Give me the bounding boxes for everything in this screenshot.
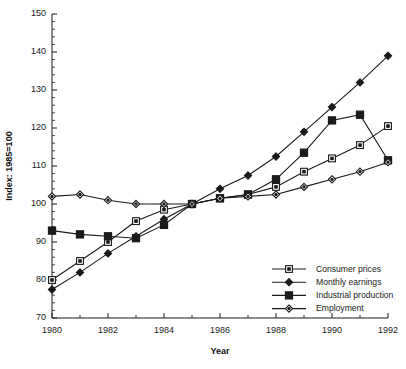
marker-filled-square: [272, 176, 279, 183]
marker-filled-square: [76, 231, 83, 238]
x-tick-label: 1986: [210, 325, 230, 335]
y-tick-label: 80: [36, 274, 46, 284]
y-tick-label: 70: [36, 312, 46, 322]
marker-open-diamond-core: [219, 197, 221, 199]
marker-open-square-core: [359, 144, 361, 146]
y-tick-label: 140: [31, 46, 46, 56]
series-employment: [48, 159, 391, 208]
marker-filled-square: [48, 227, 55, 234]
marker-filled-square: [132, 235, 139, 242]
marker-open-diamond-core: [331, 178, 333, 180]
marker-open-diamond-core: [107, 199, 109, 201]
marker-filled-diamond: [104, 250, 111, 257]
y-axis-title: Index: 1985=100: [4, 131, 14, 200]
marker-open-diamond-core: [303, 186, 305, 188]
legend-item-consumer-prices[interactable]: Consumer prices: [272, 264, 381, 274]
marker-open-diamond-core: [247, 195, 249, 197]
marker-open-diamond-core: [163, 203, 165, 205]
marker-open-square-core: [51, 279, 53, 281]
x-tick-label: 1992: [378, 325, 398, 335]
series-line: [52, 115, 388, 239]
y-tick-label: 90: [36, 236, 46, 246]
marker-filled-diamond: [48, 286, 55, 293]
marker-filled-square: [104, 233, 111, 240]
legend-item-employment[interactable]: Employment: [272, 303, 364, 313]
legend: Consumer pricesMonthly earningsIndustria…: [272, 264, 394, 314]
y-tick-label: 110: [32, 160, 46, 170]
legend-item-monthly-earnings[interactable]: Monthly earnings: [272, 277, 381, 287]
marker-filled-diamond: [244, 172, 251, 179]
legend-label: Consumer prices: [316, 264, 381, 274]
marker-filled-square: [356, 111, 363, 118]
marker-open-diamond-core: [275, 193, 277, 195]
x-tick-label: 1988: [266, 325, 286, 335]
marker-filled-diamond: [216, 185, 223, 192]
series-monthly-earnings: [48, 52, 391, 293]
marker-open-square-core: [303, 171, 305, 173]
chart-container: 7080901001101201301401501980198219841986…: [0, 0, 406, 369]
legend-label: Industrial production: [316, 290, 394, 300]
marker-open-diamond-core: [135, 203, 137, 205]
marker-open-diamond-core: [288, 308, 290, 310]
marker-filled-square: [160, 221, 167, 228]
marker-open-diamond-core: [359, 171, 361, 173]
series-line: [52, 56, 388, 290]
marker-open-square-core: [107, 241, 109, 243]
marker-filled-diamond: [76, 269, 83, 276]
marker-open-square-core: [79, 260, 81, 262]
marker-open-square-core: [135, 220, 137, 222]
y-tick-label: 100: [31, 198, 46, 208]
y-tick-label: 150: [31, 8, 46, 18]
marker-open-diamond-core: [387, 161, 389, 163]
x-tick-label: 1982: [98, 325, 118, 335]
x-tick-label: 1990: [322, 325, 342, 335]
legend-label: Monthly earnings: [316, 277, 381, 287]
legend-label: Employment: [316, 303, 364, 313]
marker-open-square-core: [387, 125, 389, 127]
y-tick-label: 120: [31, 122, 46, 132]
marker-filled-diamond: [285, 279, 292, 286]
legend-item-industrial-production[interactable]: Industrial production: [272, 290, 394, 300]
line-chart: 7080901001101201301401501980198219841986…: [0, 0, 406, 369]
marker-filled-square: [300, 149, 307, 156]
marker-open-diamond-core: [79, 193, 81, 195]
marker-open-square-core: [163, 209, 165, 211]
x-tick-label: 1984: [154, 325, 174, 335]
marker-filled-square: [328, 117, 335, 124]
y-tick-label: 130: [31, 84, 46, 94]
x-axis-title: Year: [210, 346, 230, 356]
marker-open-diamond-core: [191, 203, 193, 205]
x-tick-label: 1980: [42, 325, 62, 335]
marker-open-square-core: [331, 157, 333, 159]
marker-filled-square: [285, 292, 292, 299]
marker-open-square-core: [275, 186, 277, 188]
series-industrial-production: [48, 111, 391, 242]
marker-open-diamond-core: [51, 195, 53, 197]
marker-open-square-core: [288, 268, 290, 270]
